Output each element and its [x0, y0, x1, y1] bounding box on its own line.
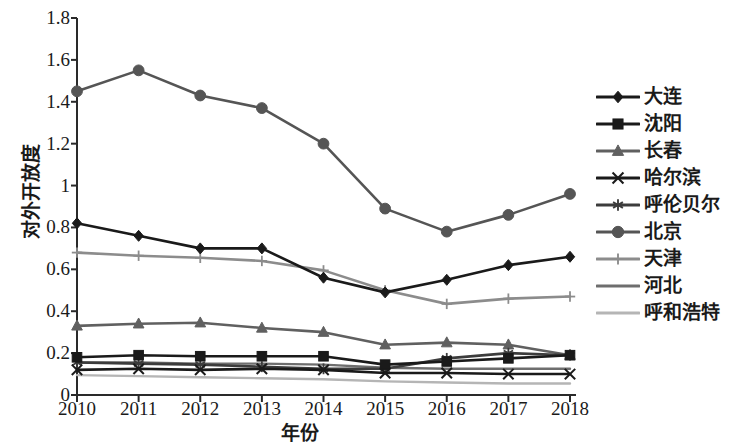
- legend-label: 北京: [644, 222, 682, 241]
- legend-item-沈阳[interactable]: 沈阳: [596, 110, 739, 137]
- legend-label: 哈尔滨: [644, 168, 701, 187]
- data-point-marker: [72, 86, 83, 97]
- data-point-marker: [133, 251, 143, 261]
- series-8: [77, 375, 570, 383]
- data-point-marker: [195, 90, 206, 101]
- data-point-marker: [196, 243, 205, 254]
- data-point-marker: [441, 226, 452, 237]
- legend-swatch-icon: [596, 249, 640, 269]
- x-axis-ticks: [77, 395, 570, 402]
- series-0: [72, 218, 574, 298]
- data-point-marker: [613, 91, 623, 103]
- data-point-marker: [442, 274, 451, 285]
- data-point-marker: [442, 299, 452, 309]
- data-point-marker: [504, 260, 513, 271]
- legend-swatch-icon: [596, 276, 640, 296]
- data-point-marker: [504, 354, 514, 364]
- legend-item-河北[interactable]: 河北: [596, 272, 739, 299]
- legend-item-呼和浩特[interactable]: 呼和浩特: [596, 299, 739, 326]
- legend-item-哈尔滨[interactable]: 哈尔滨: [596, 164, 739, 191]
- legend-swatch-icon: [596, 222, 640, 242]
- legend-item-大连[interactable]: 大连: [596, 83, 739, 110]
- data-point-marker: [195, 351, 205, 361]
- data-point-marker: [565, 291, 575, 301]
- legend-label: 长春: [644, 141, 682, 160]
- data-point-marker: [257, 256, 267, 266]
- legend-label: 沈阳: [644, 114, 682, 133]
- data-point-marker: [380, 360, 390, 370]
- data-point-marker: [503, 209, 514, 220]
- data-point-marker: [565, 251, 574, 262]
- legend-swatch-icon: [596, 168, 640, 188]
- data-point-marker: [257, 351, 267, 361]
- legend-item-长春[interactable]: 长春: [596, 137, 739, 164]
- legend-label: 呼和浩特: [644, 303, 720, 322]
- data-point-marker: [380, 203, 391, 214]
- legend-swatch-icon: [596, 87, 640, 107]
- data-point-marker: [613, 118, 623, 128]
- data-point-marker: [72, 247, 82, 257]
- legend-swatch-icon: [596, 141, 640, 161]
- chart-container: 对外开放度 年份 00.20.40.60.811.21.41.61.8 2010…: [0, 0, 739, 446]
- data-point-marker: [565, 189, 576, 200]
- data-point-marker: [134, 230, 143, 241]
- data-point-marker: [134, 350, 144, 360]
- legend-label: 大连: [644, 87, 682, 106]
- legend-swatch-icon: [596, 114, 640, 134]
- data-point-marker: [613, 253, 624, 264]
- data-point-marker: [256, 103, 267, 114]
- data-point-marker: [319, 272, 328, 283]
- legend-item-北京[interactable]: 北京: [596, 218, 739, 245]
- data-point-marker: [442, 357, 452, 367]
- data-point-marker: [319, 351, 329, 361]
- data-point-marker: [612, 226, 623, 237]
- data-point-marker: [503, 293, 513, 303]
- legend-swatch-icon: [596, 303, 640, 323]
- legend-label: 天津: [644, 249, 682, 268]
- legend-item-呼伦贝尔[interactable]: 呼伦贝尔: [596, 191, 739, 218]
- legend-label: 河北: [644, 276, 682, 295]
- series-5: [72, 65, 576, 237]
- data-point-marker: [565, 350, 575, 360]
- legend-swatch-icon: [596, 195, 640, 215]
- legend-label: 呼伦贝尔: [644, 195, 720, 214]
- legend-item-天津[interactable]: 天津: [596, 245, 739, 272]
- data-point-marker: [257, 243, 266, 254]
- chart-legend: 大连沈阳长春哈尔滨呼伦贝尔北京天津河北呼和浩特: [596, 83, 739, 326]
- data-point-marker: [72, 353, 82, 363]
- data-point-marker: [133, 65, 144, 76]
- data-point-marker: [318, 138, 329, 149]
